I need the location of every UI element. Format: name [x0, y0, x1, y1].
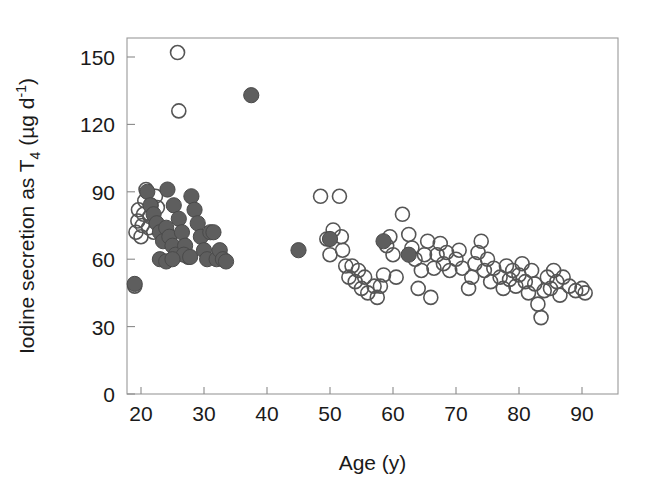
data-point-filled: [165, 252, 180, 267]
x-tick-label-90: 90: [570, 402, 593, 425]
x-tick-label-30: 30: [192, 402, 215, 425]
x-tick-label-50: 50: [318, 402, 341, 425]
data-point-filled: [322, 231, 337, 246]
data-point-open: [336, 243, 350, 257]
data-point-filled: [187, 202, 202, 217]
y-tick-label-60: 60: [92, 248, 115, 271]
data-point-filled: [166, 198, 181, 213]
data-point-filled: [376, 234, 391, 249]
axis-labels-group: 20304050607080900306090120150Age (y)Iodi…: [13, 46, 594, 474]
y-axis-title: Iodine secretion as T4 (µg d-1): [13, 78, 43, 354]
data-point-filled: [127, 276, 142, 291]
data-point-open: [389, 270, 403, 284]
y-tick-label-90: 90: [92, 181, 115, 204]
data-point-filled: [244, 88, 259, 103]
data-point-open: [553, 288, 567, 302]
data-point-open: [172, 104, 186, 118]
data-point-open: [525, 263, 539, 277]
data-point-open: [578, 286, 592, 300]
data-point-open: [411, 281, 425, 295]
data-point-filled: [140, 184, 155, 199]
data-point-open: [424, 290, 438, 304]
scatter-plot-figure: 20304050607080900306090120150Age (y)Iodi…: [0, 0, 648, 501]
y-tick-label-0: 0: [103, 383, 115, 406]
x-tick-label-60: 60: [381, 402, 404, 425]
data-point-open: [395, 207, 409, 221]
data-point-filled: [174, 225, 189, 240]
x-tick-label-80: 80: [507, 402, 530, 425]
data-point-open: [332, 189, 346, 203]
data-point-open: [452, 243, 466, 257]
data-point-open: [421, 234, 435, 248]
data-point-filled: [291, 243, 306, 258]
data-point-open: [534, 311, 548, 325]
data-point-filled: [401, 247, 416, 262]
data-point-filled: [184, 189, 199, 204]
data-point-open: [531, 297, 545, 311]
data-point-filled: [160, 182, 175, 197]
data-point-filled: [171, 211, 186, 226]
x-axis-title: Age (y): [339, 451, 407, 474]
data-point-filled: [206, 225, 221, 240]
x-tick-label-20: 20: [129, 402, 152, 425]
y-tick-label-150: 150: [80, 46, 115, 69]
data-point-open: [414, 263, 428, 277]
data-point-filled: [218, 254, 233, 269]
data-point-filled: [190, 216, 205, 231]
y-tick-label-120: 120: [80, 113, 115, 136]
data-point-filled: [183, 249, 198, 264]
x-tick-label-70: 70: [444, 402, 467, 425]
y-tick-label-30: 30: [92, 316, 115, 339]
data-points-group: [127, 46, 592, 325]
plot-canvas: 20304050607080900306090120150Age (y)Iodi…: [0, 0, 648, 501]
data-point-open: [314, 189, 328, 203]
x-tick-label-40: 40: [255, 402, 278, 425]
data-point-open: [171, 46, 185, 60]
data-point-open: [402, 227, 416, 241]
